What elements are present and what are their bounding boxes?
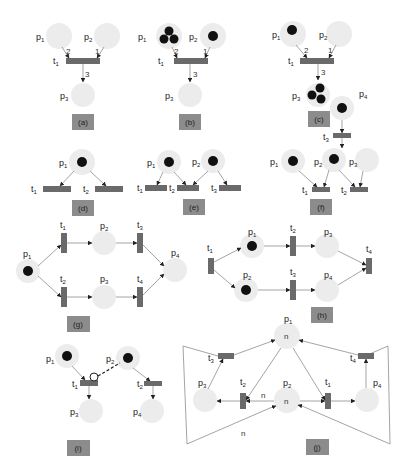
caption-d: (d) bbox=[78, 204, 88, 213]
svg-text:t2: t2 bbox=[341, 185, 348, 196]
svg-text:p3: p3 bbox=[60, 91, 69, 102]
svg-text:p3: p3 bbox=[165, 91, 174, 102]
svg-text:p2: p2 bbox=[106, 354, 115, 365]
svg-text:n: n bbox=[241, 429, 245, 438]
svg-text:p2: p2 bbox=[189, 32, 198, 43]
svg-text:3: 3 bbox=[321, 68, 326, 77]
svg-text:p4: p4 bbox=[373, 378, 382, 389]
inhibitor-arc-circle-icon bbox=[90, 373, 98, 381]
svg-text:t1: t1 bbox=[288, 56, 295, 67]
svg-text:p3: p3 bbox=[324, 227, 333, 238]
svg-text:p4: p4 bbox=[171, 248, 180, 259]
svg-text:1: 1 bbox=[95, 47, 100, 56]
panel-b: p1 p2 t1 p3 2 1 3 (b) bbox=[138, 23, 226, 130]
svg-text:p2: p2 bbox=[84, 32, 93, 43]
svg-text:p1: p1 bbox=[23, 249, 32, 260]
svg-text:p3: p3 bbox=[70, 407, 79, 418]
panel-e: p1 p2 t1 t2 t3 (e) bbox=[137, 149, 241, 215]
svg-text:t2: t2 bbox=[290, 223, 297, 234]
place-p3 bbox=[71, 83, 95, 107]
svg-text:p2: p2 bbox=[243, 270, 252, 281]
svg-text:3: 3 bbox=[193, 70, 198, 79]
svg-text:p1: p1 bbox=[36, 32, 45, 43]
svg-text:p1: p1 bbox=[59, 158, 68, 169]
svg-text:t4: t4 bbox=[137, 274, 144, 285]
svg-text:t2: t2 bbox=[137, 379, 144, 390]
panel-g: p1 t1 p2 t3 p4 t2 p3 t4 (g) bbox=[16, 220, 187, 332]
caption-i: (i) bbox=[74, 444, 81, 453]
svg-text:p3: p3 bbox=[100, 274, 109, 285]
svg-text:p1: p1 bbox=[46, 354, 55, 365]
svg-text:n: n bbox=[261, 391, 265, 400]
caption-a: (a) bbox=[78, 118, 88, 127]
svg-text:t1: t1 bbox=[302, 185, 309, 196]
caption-b: (b) bbox=[185, 118, 195, 127]
svg-text:t2: t2 bbox=[169, 183, 176, 194]
svg-text:p1: p1 bbox=[248, 227, 257, 238]
svg-text:p1: p1 bbox=[272, 30, 281, 41]
svg-text:1: 1 bbox=[203, 47, 208, 56]
panel-d: p1 t1 t2 (d) bbox=[31, 149, 123, 216]
caption-f: (f) bbox=[317, 203, 325, 212]
svg-text:p2: p2 bbox=[283, 378, 292, 389]
svg-text:t3: t3 bbox=[137, 220, 144, 231]
svg-text:t3: t3 bbox=[211, 183, 218, 194]
svg-text:p4: p4 bbox=[359, 89, 368, 100]
svg-text:3: 3 bbox=[85, 70, 90, 79]
svg-text:t1: t1 bbox=[137, 183, 144, 194]
svg-text:t1: t1 bbox=[207, 243, 214, 254]
caption-g: (g) bbox=[73, 320, 83, 329]
caption-j: (j) bbox=[313, 443, 320, 452]
panel-h: t1 p1 t2 p3 t4 p2 t3 p4 (h) bbox=[207, 223, 373, 323]
svg-text:n: n bbox=[284, 332, 288, 341]
svg-text:t2: t2 bbox=[240, 377, 247, 388]
svg-text:p1: p1 bbox=[138, 32, 147, 43]
svg-text:p3: p3 bbox=[292, 91, 301, 102]
svg-text:t3: t3 bbox=[323, 132, 330, 143]
svg-text:t1: t1 bbox=[158, 56, 165, 67]
svg-text:1: 1 bbox=[328, 46, 333, 55]
svg-text:2: 2 bbox=[174, 47, 179, 56]
svg-text:p1: p1 bbox=[284, 314, 293, 325]
svg-text:p2: p2 bbox=[100, 221, 109, 232]
svg-text:2: 2 bbox=[304, 46, 309, 55]
svg-text:t1: t1 bbox=[31, 184, 38, 195]
place-p1 bbox=[46, 23, 72, 49]
caption-c: (c) bbox=[314, 115, 324, 124]
panel-i: p1 p2 t1 t2 p3 p4 (i) bbox=[46, 344, 164, 456]
svg-text:t1: t1 bbox=[325, 377, 332, 388]
caption-h: (h) bbox=[317, 311, 327, 320]
petri-net-figure: p1 p2 t1 p3 2 1 3 (a) p1 p2 t1 p3 2 1 3 … bbox=[0, 0, 409, 475]
svg-text:p4: p4 bbox=[324, 270, 333, 281]
svg-text:t2: t2 bbox=[83, 184, 90, 195]
svg-text:p1: p1 bbox=[270, 157, 279, 168]
svg-text:p2: p2 bbox=[192, 157, 201, 168]
svg-text:p1: p1 bbox=[147, 158, 156, 169]
place-p2 bbox=[94, 23, 120, 49]
panel-j: n n p1 t3 t4 p3 t2 p2 t1 p4 n n (j) bbox=[183, 314, 390, 455]
svg-text:t2: t2 bbox=[60, 274, 67, 285]
svg-text:t1: t1 bbox=[60, 220, 67, 231]
caption-e: (e) bbox=[189, 203, 199, 212]
svg-text:t1: t1 bbox=[53, 56, 60, 67]
panel-f: p4 t3 p1 p2 p3 t1 t2 (f) bbox=[270, 89, 379, 215]
transition-t1 bbox=[66, 58, 100, 64]
svg-text:p2: p2 bbox=[314, 157, 323, 168]
svg-text:2: 2 bbox=[66, 47, 71, 56]
svg-text:p3: p3 bbox=[198, 378, 207, 389]
panel-a: p1 p2 t1 p3 2 1 3 (a) bbox=[36, 23, 120, 130]
svg-text:t3: t3 bbox=[290, 267, 297, 278]
svg-text:t4: t4 bbox=[366, 244, 373, 255]
svg-text:n: n bbox=[284, 397, 288, 406]
svg-text:t1: t1 bbox=[72, 379, 79, 390]
